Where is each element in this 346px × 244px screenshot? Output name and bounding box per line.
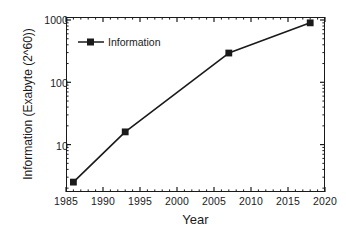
x-tick-label-1985: 1985: [54, 195, 78, 207]
x-tick-label-2005: 2005: [202, 195, 226, 207]
y-tick-label-10: 10: [56, 140, 68, 152]
x-axis-title: Year: [66, 212, 325, 227]
legend: Information: [78, 36, 161, 48]
x-tick-label-2020: 2020: [313, 195, 337, 207]
x-tick-label-2015: 2015: [276, 195, 300, 207]
x-tick-label-2000: 2000: [165, 195, 189, 207]
x-tick-label-2010: 2010: [239, 195, 263, 207]
y-tick-label-1000: 1000: [44, 14, 68, 26]
y-axis-title: Information (Exabyte (2^60)): [21, 4, 35, 204]
chart-page: 1000 100 10 1985 1990 1995 2000 2005 201…: [0, 0, 346, 244]
legend-label-information: Information: [108, 36, 161, 48]
x-tick-label-1990: 1990: [91, 195, 115, 207]
x-tick-label-1995: 1995: [128, 195, 152, 207]
legend-square-marker-icon: [78, 37, 104, 47]
y-tick-label-100: 100: [50, 77, 68, 89]
